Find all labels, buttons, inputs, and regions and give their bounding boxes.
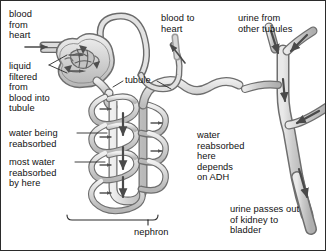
label-water-being-reabsorbed: water being reabsorbed: [9, 128, 58, 149]
distal-tubule: [143, 80, 239, 105]
label-liquid-filtered: liquid filtered from blood into tubule: [9, 61, 50, 114]
label-blood-from-heart: blood from heart: [9, 9, 32, 41]
label-urine-from-other-tubules: urine from other tubules: [238, 13, 292, 34]
label-nephron: nephron: [134, 227, 168, 238]
label-urine-passes-out: urine passes out of kidney to bladder: [230, 204, 299, 236]
leader-tubule-left: [113, 81, 123, 87]
duct-branch-lower-right: [289, 107, 326, 125]
label-water-reabsorbed-adh: water reabsorbed here depends on ADH: [197, 130, 245, 183]
nephron-bracket: [67, 215, 158, 225]
label-blood-to-heart: blood to heart: [161, 13, 194, 34]
nephron-diagram-figure: blood from heart liquid filtered from bl…: [0, 0, 326, 251]
label-tubule: tubule: [125, 75, 151, 86]
duct-branch-left-mid: [245, 85, 278, 90]
label-most-water-reabsorbed: most water reabsorbed by here: [9, 157, 57, 189]
